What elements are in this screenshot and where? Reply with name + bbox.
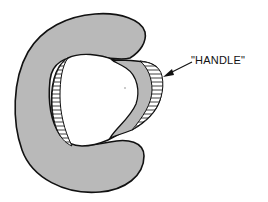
diagram-figure: "HANDLE": [0, 0, 268, 202]
handle-label: "HANDLE": [191, 54, 245, 66]
c-shape-diagram: [0, 0, 268, 202]
arrow-head-icon: [163, 69, 174, 77]
center-dot: [124, 87, 126, 89]
